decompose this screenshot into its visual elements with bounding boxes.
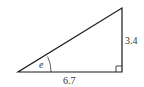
angle-label: e [39, 59, 44, 70]
height-length-label: 3.4 [125, 35, 138, 46]
angle-arc [48, 57, 51, 73]
base-length-label: 6.7 [63, 75, 76, 86]
triangle [18, 8, 122, 72]
right-triangle-diagram: e 6.7 3.4 [0, 0, 144, 87]
right-angle-marker [116, 66, 122, 72]
